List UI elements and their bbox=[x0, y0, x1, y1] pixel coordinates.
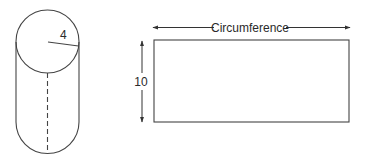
radius-line bbox=[48, 42, 79, 46]
cylinder bbox=[16, 10, 79, 154]
height-label: 10 bbox=[134, 75, 148, 89]
cylinder-top-circle bbox=[16, 10, 79, 73]
radius-label: 4 bbox=[60, 28, 67, 42]
circumference-label: Circumference bbox=[211, 21, 289, 35]
net-rectangle bbox=[154, 40, 349, 122]
diagram-canvas: 4 Circumference 10 bbox=[0, 0, 366, 163]
